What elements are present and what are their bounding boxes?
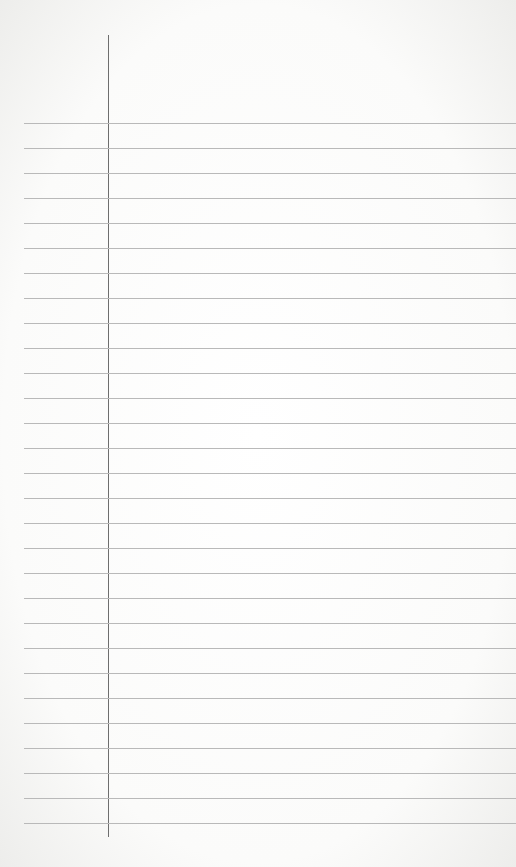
ruled-line xyxy=(24,823,516,824)
ruled-line xyxy=(24,723,516,724)
ruled-line xyxy=(24,573,516,574)
ruled-line xyxy=(24,323,516,324)
ruled-line xyxy=(24,523,516,524)
lined-paper-sheet xyxy=(0,0,516,867)
ruled-line xyxy=(24,248,516,249)
ruled-line xyxy=(24,598,516,599)
ruled-line xyxy=(24,223,516,224)
ruled-line xyxy=(24,648,516,649)
ruled-line xyxy=(24,398,516,399)
ruled-line xyxy=(24,373,516,374)
ruled-line xyxy=(24,748,516,749)
ruled-line xyxy=(24,473,516,474)
ruled-line xyxy=(24,498,516,499)
ruled-line xyxy=(24,148,516,149)
ruled-line xyxy=(24,173,516,174)
margin-line xyxy=(108,35,109,837)
ruled-line xyxy=(24,423,516,424)
ruled-line xyxy=(24,698,516,699)
ruled-line xyxy=(24,673,516,674)
ruled-line xyxy=(24,798,516,799)
ruled-line xyxy=(24,123,516,124)
ruled-line xyxy=(24,348,516,349)
ruled-line xyxy=(24,448,516,449)
ruled-line xyxy=(24,298,516,299)
ruled-line xyxy=(24,198,516,199)
ruled-line xyxy=(24,273,516,274)
ruled-line xyxy=(24,548,516,549)
ruled-line xyxy=(24,623,516,624)
ruled-line xyxy=(24,773,516,774)
